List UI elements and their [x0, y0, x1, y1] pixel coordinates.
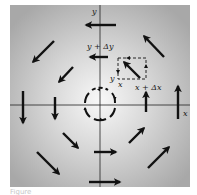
- vector-field-figure: y x: [0, 0, 197, 195]
- label-y: y: [109, 74, 115, 83]
- label-x-plus-delta-x: x + Δx: [135, 83, 162, 92]
- figure-caption-partial: Figure: [10, 189, 190, 195]
- label-x: x: [118, 80, 123, 89]
- x-axis-label: x: [183, 109, 188, 118]
- label-y-plus-delta-y: y + Δy: [86, 42, 114, 51]
- y-axis-label: y: [91, 7, 97, 16]
